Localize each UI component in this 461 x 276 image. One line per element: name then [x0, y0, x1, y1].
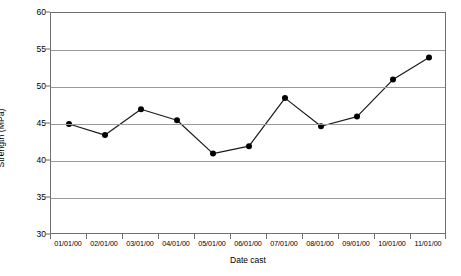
x-tick-label: 04/01/00	[162, 240, 190, 247]
x-tick-label: 01/01/00	[54, 240, 82, 247]
x-tick-mark	[230, 234, 231, 239]
series-line-strength	[51, 13, 445, 233]
x-tick-mark	[86, 234, 87, 239]
x-tick-label: 09/01/00	[342, 240, 370, 247]
data-point-marker	[174, 117, 180, 123]
series-polyline	[69, 57, 429, 153]
data-point-marker	[210, 151, 216, 157]
data-point-marker	[246, 143, 252, 149]
x-tick-label: 03/01/00	[126, 240, 154, 247]
gridline	[51, 161, 445, 162]
x-axis-title-text: Date cast	[230, 255, 266, 265]
x-tick-label: 11/01/00	[414, 240, 441, 247]
data-point-marker	[282, 95, 288, 101]
gridline	[51, 198, 445, 199]
x-tick-mark	[50, 234, 51, 239]
x-tick-mark	[445, 234, 446, 239]
x-tick-mark	[266, 234, 267, 239]
x-axis-tick-labels: 01/01/0002/01/0003/01/0004/01/0005/01/00…	[50, 240, 446, 254]
data-point-marker	[138, 106, 144, 112]
data-point-marker	[102, 132, 108, 138]
x-tick-mark	[194, 234, 195, 239]
x-axis-title: Date cast	[50, 256, 446, 265]
x-tick-mark	[338, 234, 339, 239]
y-axis-title-text: Strength (MPa)	[0, 108, 5, 167]
x-tick-label: 08/01/00	[306, 240, 334, 247]
x-tick-mark	[158, 234, 159, 239]
line-chart: Strength (MPa) 30354045505560 01/01/0002…	[0, 0, 461, 276]
x-tick-mark	[302, 234, 303, 239]
x-tick-label: 07/01/00	[270, 240, 298, 247]
x-tick-mark	[374, 234, 375, 239]
x-tick-mark	[410, 234, 411, 239]
data-point-marker	[426, 54, 432, 60]
y-axis-tick-labels: 30354045505560	[22, 12, 46, 234]
plot-area	[51, 13, 445, 233]
data-point-marker	[354, 114, 360, 120]
x-tick-label: 06/01/00	[234, 240, 262, 247]
x-tick-label: 05/01/00	[198, 240, 226, 247]
plot-frame	[50, 12, 446, 234]
x-tick-label: 02/01/00	[90, 240, 118, 247]
gridline	[51, 87, 445, 88]
data-point-marker	[390, 77, 396, 83]
gridline	[51, 50, 445, 51]
x-tick-mark	[122, 234, 123, 239]
gridline	[51, 124, 445, 125]
x-tick-label: 10/01/00	[378, 240, 406, 247]
y-axis-title: Strength (MPa)	[0, 0, 18, 276]
